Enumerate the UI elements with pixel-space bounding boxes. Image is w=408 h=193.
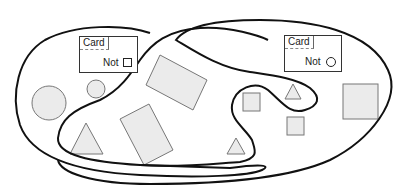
large-circle-shape — [32, 86, 66, 120]
card-title: Card — [285, 36, 314, 49]
card-not-square: Card Not — [79, 36, 138, 73]
rotated-rectangle-top-shape — [146, 55, 207, 110]
square-icon — [123, 58, 132, 67]
small-triangle-bottom-shape — [227, 138, 245, 154]
rotated-rectangle-bottom-shape — [120, 104, 173, 165]
large-square-shape — [343, 84, 378, 119]
small-triangle-top-shape — [285, 84, 301, 99]
card-label: Not — [103, 57, 119, 69]
small-square-left-shape — [243, 93, 260, 111]
card-label: Not — [305, 56, 321, 68]
small-square-center-shape — [287, 117, 304, 135]
card-title: Card — [80, 37, 109, 50]
triangle-left-shape — [70, 123, 103, 154]
circle-icon — [326, 57, 336, 67]
card-not-circle: Card Not — [284, 35, 342, 72]
small-circle-shape — [87, 80, 105, 98]
set-diagram-canvas — [0, 0, 408, 193]
